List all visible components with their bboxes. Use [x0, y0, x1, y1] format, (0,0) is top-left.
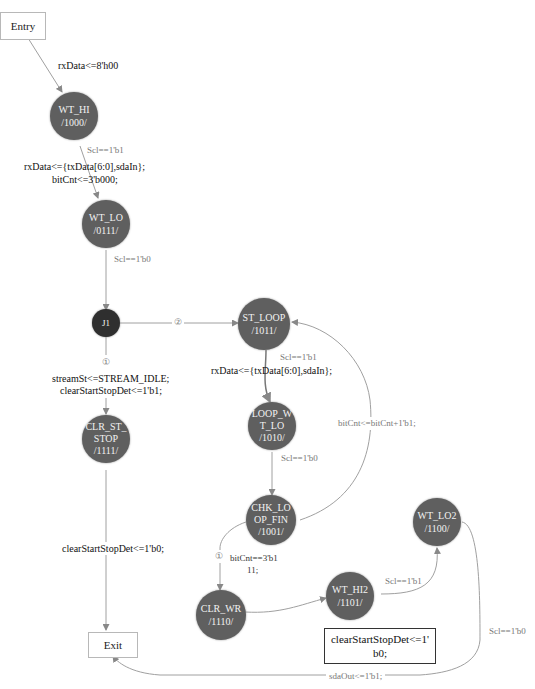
state-name-2: T_LO	[260, 420, 284, 432]
state-code: /1011/	[251, 324, 276, 337]
note-line-1: clearStartStopDet<=1'	[329, 632, 431, 646]
state-name-1: CLR_ST_	[85, 421, 126, 433]
state-name: WT_LO	[89, 211, 123, 224]
wt-hi-action-label-2: bitCnt<=3'b000;	[52, 173, 118, 186]
entry-action-label: rxData<=8'h00	[58, 59, 118, 72]
state-code: /1101/	[337, 596, 362, 609]
state-name: WT_LO2	[418, 509, 457, 522]
state-name: WT_HI2	[332, 583, 368, 596]
wt-hi-action-label-1: rxData<={txData[6:0],sdaIn};	[24, 160, 145, 173]
exit-label: Exit	[104, 639, 122, 651]
entry-terminal: Entry	[0, 12, 46, 40]
junction-j1: J1	[92, 309, 120, 337]
st-loop-action-label: rxData<={txData[6:0],sdaIn};	[211, 364, 332, 377]
state-name-2: OP_FIN	[254, 514, 288, 526]
loop-wt-lo-cond-label: Scl==1'b0	[281, 452, 318, 465]
state-clr-wr: CLR_WR /1110/	[196, 590, 246, 640]
wt-hi2-cond-label: Scl==1'b1	[385, 575, 422, 588]
state-code: /1000/	[61, 116, 87, 129]
action-note: clearStartStopDet<=1' b0;	[324, 628, 436, 664]
edge-clr-wr-wt-hi2	[245, 598, 326, 612]
edge-entry-wt-hi	[28, 38, 62, 92]
exit-terminal: Exit	[88, 632, 138, 658]
state-name-1: LOOP_W	[252, 408, 293, 420]
state-st-loop: ST_LOOP /1011/	[238, 298, 290, 350]
state-name: ST_LOOP	[243, 311, 286, 324]
state-name: WT_HI	[58, 103, 89, 116]
chk-cond-label-2: 11;	[247, 564, 258, 577]
state-code: /1010/	[259, 432, 285, 444]
st-loop-cond-label: Scl==1'b1	[280, 351, 317, 364]
state-wt-lo: WT_LO /0111/	[82, 200, 130, 248]
state-code: /0111/	[94, 224, 119, 237]
note-line-2: b0;	[329, 646, 431, 660]
chk-branch-1-label: ①	[215, 550, 223, 563]
state-clr-st-stop: CLR_ST_ STOP /1111/	[82, 415, 130, 463]
clr-st-stop-action-label: clearStartStopDet<=1'b0;	[62, 542, 164, 555]
entry-label: Entry	[11, 20, 35, 32]
state-code: /1001/	[258, 526, 284, 538]
exit-action-label: sdaOut<=1'b1;	[326, 670, 385, 683]
state-code: /1100/	[424, 522, 449, 535]
loop-back-action-label: bitCnt<=bitCnt+1'b1;	[338, 417, 416, 430]
j1-branch-2-label: ②	[172, 316, 184, 329]
state-chk-loop-fin: CHK_LO OP_FIN /1001/	[246, 495, 296, 545]
state-wt-lo2: WT_LO2 /1100/	[413, 498, 461, 546]
state-code: /1110/	[209, 615, 234, 628]
wt-hi-cond-label: Scl==1'b1	[87, 144, 124, 157]
state-wt-hi2: WT_HI2 /1101/	[326, 572, 374, 620]
state-wt-hi: WT_HI /1000/	[50, 92, 98, 140]
state-name-1: CHK_LO	[251, 502, 290, 514]
j1-branch-1-label: ①	[102, 356, 110, 369]
j1-action-label-2: clearStartStopDet<=1'b1;	[60, 384, 162, 397]
state-name: CLR_WR	[201, 602, 242, 615]
state-code: /1111/	[94, 445, 118, 457]
junction-name: J1	[102, 317, 110, 330]
state-name-2: STOP	[94, 433, 118, 445]
wt-lo-cond-label: Scl==1'b0	[114, 253, 151, 266]
state-loop-wt-lo: LOOP_W T_LO /1010/	[248, 402, 296, 450]
wt-lo2-cond-label: Scl==1'b0	[489, 625, 526, 638]
